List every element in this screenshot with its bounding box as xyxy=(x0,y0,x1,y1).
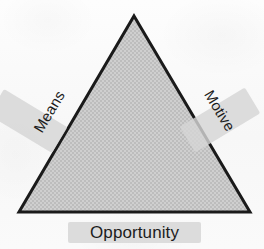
opportunity-label: Opportunity xyxy=(68,223,201,242)
crime-triangle-diagram: Means Motive Opportunity xyxy=(0,0,264,249)
